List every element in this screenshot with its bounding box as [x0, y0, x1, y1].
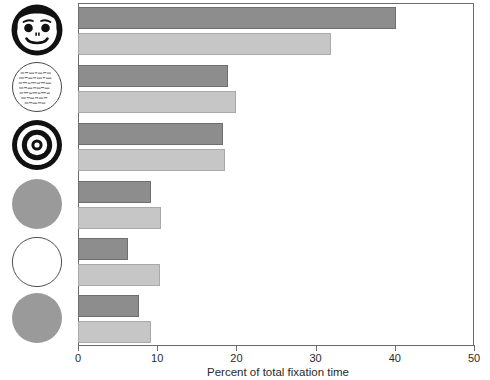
x-axis-line [78, 345, 475, 346]
gray-disc-icon [10, 177, 64, 231]
x-tick-label-20: 20 [216, 352, 256, 364]
bar-text-circle-dark [78, 65, 228, 87]
bar-chart: 01020304050 Percent of total fixation ti… [0, 0, 490, 380]
x-tick-30 [316, 345, 317, 351]
bullseye-icon [9, 118, 65, 172]
bar-gray-disc-top-light [78, 207, 161, 229]
x-tick-20 [236, 345, 237, 351]
bar-gray-disc-bottom-dark [78, 295, 139, 317]
x-tick-label-10: 10 [137, 352, 177, 364]
bar-face-dark [78, 7, 396, 29]
x-tick-0 [78, 345, 79, 351]
category-icon-gray-disc-top [6, 177, 68, 231]
x-tick-label-40: 40 [375, 352, 415, 364]
gray-disc-icon [10, 291, 64, 345]
bar-face-light [78, 33, 331, 55]
bar-text-circle-light [78, 91, 236, 113]
x-axis-title: Percent of total fixation time [0, 366, 490, 378]
x-axis-title-text: Percent of total fixation time [207, 366, 349, 378]
category-icon-bullseye [6, 118, 68, 172]
text-circle-icon [9, 60, 65, 114]
bar-bullseye-dark [78, 123, 223, 145]
bar-gray-disc-bottom-light [78, 321, 151, 343]
plot-area [78, 3, 474, 345]
bar-white-circle-light [78, 264, 160, 286]
bar-white-circle-dark [78, 238, 128, 260]
category-icon-gray-disc-bottom [6, 291, 68, 345]
x-tick-label-50: 50 [454, 352, 490, 364]
x-tick-10 [157, 345, 158, 351]
category-icon-column [0, 0, 74, 345]
x-tick-50 [474, 345, 475, 351]
x-tick-40 [395, 345, 396, 351]
category-icon-face [6, 3, 68, 57]
category-icon-white-circle [6, 235, 68, 289]
x-tick-label-30: 30 [296, 352, 336, 364]
bar-bullseye-light [78, 149, 225, 171]
face-icon [9, 3, 65, 57]
white-circle-icon [10, 235, 64, 289]
bar-gray-disc-top-dark [78, 181, 151, 203]
category-icon-text-circle [6, 60, 68, 114]
x-tick-label-0: 0 [58, 352, 98, 364]
